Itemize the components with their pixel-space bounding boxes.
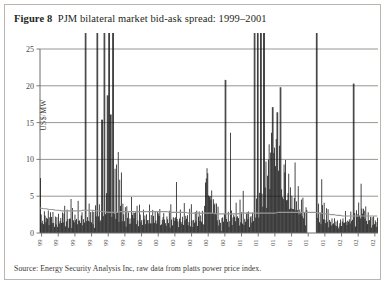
svg-text:5/4/02: 5/4/02	[369, 240, 376, 246]
series-bars	[40, 33, 378, 233]
figure-frame: Figure 8 PJM bilateral market bid-ask sp…	[4, 4, 381, 280]
svg-text:5/4/99: 5/4/99	[69, 239, 76, 246]
svg-text:3/4/00: 3/4/00	[152, 239, 159, 246]
svg-text:11/4/00: 11/4/00	[219, 239, 226, 246]
chart-plot-region: US$/MW 05101520251/4/993/4/995/4/997/4/9…	[14, 31, 380, 246]
svg-text:3/4/99: 3/4/99	[52, 239, 59, 246]
svg-text:5/4/01: 5/4/01	[269, 239, 276, 246]
svg-text:1/4/99: 1/4/99	[36, 239, 43, 246]
svg-text:5/4/00: 5/4/00	[169, 239, 176, 246]
svg-text:1/4/01: 1/4/01	[236, 239, 243, 246]
figure-title: Figure 8 PJM bilateral market bid-ask sp…	[14, 12, 374, 25]
svg-text:9/4/00: 9/4/00	[202, 239, 209, 246]
svg-text:1/4/00: 1/4/00	[136, 239, 143, 246]
bid-ask-spread-chart: 05101520251/4/993/4/995/4/997/4/999/4/99…	[14, 31, 380, 246]
svg-text:11/4/01: 11/4/01	[319, 239, 326, 246]
svg-text:1/4/02: 1/4/02	[336, 240, 343, 246]
svg-text:11/4/99: 11/4/99	[119, 239, 126, 246]
svg-text:5: 5	[30, 192, 34, 201]
source-note: Source: Energy Security Analysis Inc, ra…	[14, 264, 261, 273]
figure-number: Figure 8	[14, 13, 52, 24]
svg-text:7/4/01: 7/4/01	[286, 239, 293, 246]
svg-text:9/4/01: 9/4/01	[302, 240, 309, 246]
svg-text:15: 15	[26, 119, 34, 128]
svg-text:0: 0	[30, 229, 34, 238]
svg-text:9/4/99: 9/4/99	[102, 239, 109, 246]
svg-text:10: 10	[26, 155, 34, 164]
svg-text:7/4/99: 7/4/99	[86, 239, 93, 246]
figure-title-text: PJM bilateral market bid-ask spread: 199…	[58, 13, 267, 24]
svg-text:3/4/01: 3/4/01	[252, 240, 259, 246]
svg-text:25: 25	[26, 45, 34, 54]
svg-text:3/4/02: 3/4/02	[352, 239, 359, 246]
svg-text:20: 20	[26, 82, 34, 91]
svg-text:7/4/00: 7/4/00	[186, 239, 193, 246]
